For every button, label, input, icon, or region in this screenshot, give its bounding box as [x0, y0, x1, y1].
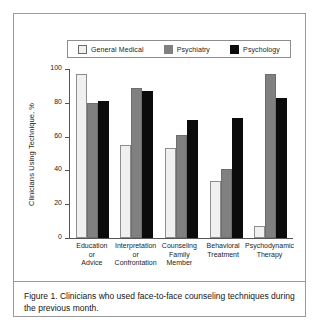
bar-group	[115, 69, 160, 238]
bar[interactable]	[265, 74, 276, 238]
chart-legend: General MedicalPsychiatryPsychology	[67, 40, 291, 58]
y-axis-tick-label: 20	[54, 199, 62, 206]
x-axis-label-line: Confrontation	[114, 259, 158, 268]
bar-group	[159, 69, 204, 238]
x-axis-label-line: or	[114, 251, 158, 260]
x-axis-label-line: Therapy	[245, 251, 294, 260]
y-axis-title-text: Clinicians Using Technique, %	[28, 102, 37, 205]
bar[interactable]	[254, 226, 265, 238]
y-axis-tick-label: 80	[54, 98, 62, 105]
x-axis-labels: EducationorAdviceInterpretationorConfron…	[70, 242, 294, 268]
bars-layer	[70, 69, 293, 238]
y-axis-tick: 20	[65, 204, 69, 205]
x-axis-label-line: Psychodynamic	[245, 242, 294, 251]
y-axis-tick: 40	[65, 170, 69, 171]
figure-frame: General MedicalPsychiatryPsychology Clin…	[13, 13, 306, 317]
y-axis-tick-label: 60	[54, 132, 62, 139]
y-axis-tick-label: 100	[50, 64, 62, 71]
figure-caption: Figure 1. Clinicians who used face-to-fa…	[24, 291, 296, 314]
x-axis-label: InterpretationorConfrontation	[114, 242, 158, 268]
bar[interactable]	[87, 103, 98, 238]
legend-entry: Psychiatry	[164, 45, 210, 54]
bar-group	[248, 69, 293, 238]
legend-swatch-icon	[164, 45, 173, 54]
x-axis-label-line: Education	[70, 242, 114, 251]
x-axis-label-line: Behavioral	[201, 242, 245, 251]
bar[interactable]	[131, 88, 142, 238]
legend-entry: Psychology	[230, 45, 280, 54]
bar[interactable]	[120, 145, 131, 238]
x-axis-label: CounselingFamilyMember	[158, 242, 202, 268]
chart-region: General MedicalPsychiatryPsychology Clin…	[14, 14, 305, 281]
bar[interactable]	[210, 181, 221, 238]
x-axis-label: BehavioralTreatment	[201, 242, 245, 268]
legend-label: Psychology	[243, 46, 280, 53]
x-axis-label-line: Treatment	[201, 251, 245, 260]
caption-divider	[14, 281, 305, 282]
legend-swatch-icon	[78, 45, 87, 54]
legend-label: Psychiatry	[177, 46, 210, 53]
bar[interactable]	[142, 91, 153, 238]
x-axis-label-line: Advice	[70, 259, 114, 268]
x-axis-label: EducationorAdvice	[70, 242, 114, 268]
y-axis-tick-label: 0	[58, 233, 62, 240]
legend-label: General Medical	[91, 46, 143, 53]
y-axis-title: Clinicians Using Technique, %	[26, 69, 38, 239]
x-axis-label-line: Member	[158, 259, 202, 268]
y-axis-tick: 100	[65, 69, 69, 70]
bar[interactable]	[187, 120, 198, 238]
bar[interactable]	[165, 148, 176, 238]
bar[interactable]	[232, 118, 243, 238]
bar[interactable]	[221, 169, 232, 238]
y-axis-tick: 60	[65, 137, 69, 138]
bar[interactable]	[176, 135, 187, 238]
x-axis-line	[69, 238, 293, 239]
plot-area: 020406080100	[69, 69, 293, 239]
x-axis-label-line: or	[70, 251, 114, 260]
legend-entry: General Medical	[78, 45, 143, 54]
bar-group	[204, 69, 249, 238]
x-axis-label-line: Family	[158, 251, 202, 260]
legend-swatch-icon	[230, 45, 239, 54]
bar[interactable]	[276, 98, 287, 238]
x-axis-label-line: Counseling	[158, 242, 202, 251]
y-axis-tick-label: 40	[54, 165, 62, 172]
bar[interactable]	[76, 74, 87, 238]
x-axis-label-line: Interpretation	[114, 242, 158, 251]
bar[interactable]	[98, 101, 109, 238]
bar-group	[70, 69, 115, 238]
y-axis-tick: 80	[65, 103, 69, 104]
x-axis-label: PsychodynamicTherapy	[245, 242, 294, 268]
y-axis-tick: 0	[65, 238, 69, 239]
